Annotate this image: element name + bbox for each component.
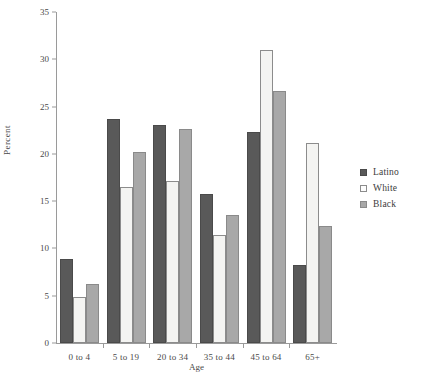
bar-latino-4 bbox=[247, 132, 260, 343]
x-tick-label: 65+ bbox=[278, 352, 348, 362]
bar-black-4 bbox=[273, 91, 286, 344]
bar-group bbox=[247, 12, 286, 343]
legend-item-black[interactable]: Black bbox=[360, 196, 426, 212]
bar-black-1 bbox=[133, 152, 146, 343]
bar-white-3 bbox=[213, 235, 226, 343]
legend-item-latino[interactable]: Latino bbox=[360, 164, 426, 180]
bar-white-5 bbox=[306, 143, 319, 343]
y-tick-mark bbox=[52, 295, 56, 296]
legend-swatch-icon bbox=[360, 169, 367, 176]
bar-chart: Percent 05101520253035 0 to 45 to 1920 t… bbox=[0, 0, 428, 385]
y-tick-label: 25 bbox=[15, 102, 56, 112]
bar-latino-0 bbox=[60, 259, 73, 343]
y-tick-label: 20 bbox=[15, 149, 56, 159]
legend-item-label: Black bbox=[373, 199, 396, 209]
y-tick-label: 0 bbox=[15, 338, 56, 348]
y-tick-mark bbox=[52, 59, 56, 60]
bar-latino-2 bbox=[153, 125, 166, 343]
y-tick-mark bbox=[52, 248, 56, 249]
legend-item-label: White bbox=[373, 183, 397, 193]
y-axis-label: Percent bbox=[2, 100, 12, 180]
y-tick-mark bbox=[52, 106, 56, 107]
y-tick-mark bbox=[52, 153, 56, 154]
bar-black-3 bbox=[226, 215, 239, 343]
legend-swatch-icon bbox=[360, 185, 367, 192]
bar-latino-5 bbox=[293, 265, 306, 343]
y-tick-mark bbox=[52, 12, 56, 13]
y-tick-label: 30 bbox=[15, 54, 56, 64]
legend-item-white[interactable]: White bbox=[360, 180, 426, 196]
y-tick-label: 35 bbox=[15, 7, 56, 17]
bar-group bbox=[107, 12, 146, 343]
x-tick-mark bbox=[149, 344, 150, 348]
bar-white-0 bbox=[73, 297, 86, 343]
x-tick-mark bbox=[243, 344, 244, 348]
bar-group bbox=[60, 12, 99, 343]
plot-area: 05101520253035 0 to 45 to 1920 to 3435 t… bbox=[56, 12, 336, 344]
legend-item-label: Latino bbox=[373, 167, 399, 177]
y-tick-label: 5 bbox=[15, 291, 56, 301]
bar-group bbox=[153, 12, 192, 343]
bar-group bbox=[293, 12, 332, 343]
y-tick-mark bbox=[52, 201, 56, 202]
bar-black-2 bbox=[179, 129, 192, 343]
x-tick-mark bbox=[289, 344, 290, 348]
bar-black-5 bbox=[319, 226, 332, 343]
bar-latino-3 bbox=[200, 194, 213, 343]
y-tick-label: 15 bbox=[15, 196, 56, 206]
chart-legend: LatinoWhiteBlack bbox=[360, 164, 426, 212]
bar-latino-1 bbox=[107, 119, 120, 343]
bar-white-2 bbox=[166, 181, 179, 343]
y-axis-line bbox=[56, 12, 57, 344]
x-tick-mark bbox=[103, 344, 104, 348]
y-tick-label: 10 bbox=[15, 243, 56, 253]
y-tick-mark bbox=[52, 343, 56, 344]
x-axis-label: Age bbox=[56, 362, 337, 372]
bar-black-0 bbox=[86, 284, 99, 343]
legend-swatch-icon bbox=[360, 201, 367, 208]
x-tick-mark bbox=[196, 344, 197, 348]
bar-white-4 bbox=[260, 50, 273, 343]
bar-group bbox=[200, 12, 239, 343]
bar-white-1 bbox=[120, 187, 133, 343]
